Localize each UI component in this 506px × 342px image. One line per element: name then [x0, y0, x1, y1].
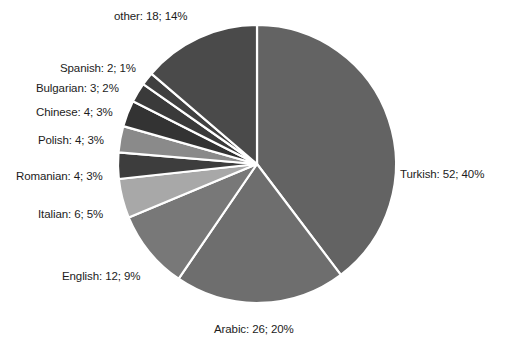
pie-slices-group	[118, 25, 396, 303]
pie-label-polish: Polish: 4; 3%	[38, 134, 104, 147]
pie-label-romanian: Romanian: 4; 3%	[16, 170, 103, 183]
pie-label-arabic: Arabic: 26; 20%	[214, 323, 294, 336]
pie-label-bulgarian: Bulgarian: 3; 2%	[36, 82, 119, 95]
pie-chart-figure: Turkish: 52; 40% Arabic: 26; 20% English…	[0, 0, 506, 342]
pie-label-italian: Italian: 6; 5%	[38, 208, 103, 221]
pie-label-turkish: Turkish: 52; 40%	[400, 168, 484, 181]
pie-label-chinese: Chinese: 4; 3%	[36, 106, 113, 119]
pie-label-other: other: 18; 14%	[114, 10, 187, 23]
pie-label-spanish: Spanish: 2; 1%	[60, 62, 136, 75]
pie-label-english: English: 12; 9%	[62, 270, 140, 283]
